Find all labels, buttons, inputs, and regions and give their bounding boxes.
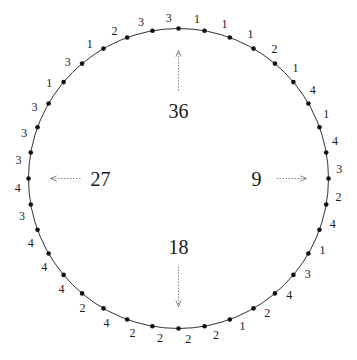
position-dot	[202, 28, 207, 33]
position-value-label: 4	[28, 236, 34, 250]
direction-label-27: 27	[91, 168, 111, 190]
position-dot	[46, 101, 51, 106]
position-value-label: 4	[286, 288, 292, 302]
position-labels-group: 311121414324134212222424443433313123	[15, 11, 342, 346]
position-dot	[317, 228, 322, 233]
position-dot	[228, 317, 233, 322]
position-value-label: 1	[46, 76, 52, 90]
position-value-label: 4	[41, 260, 47, 274]
position-value-label: 1	[221, 17, 227, 31]
position-value-label: 3	[138, 15, 144, 29]
position-dot	[176, 326, 181, 331]
position-value-label: 1	[247, 27, 253, 41]
direction-label-9: 9	[252, 168, 262, 190]
direction-label-36: 36	[169, 100, 189, 122]
position-dot	[291, 273, 296, 278]
position-value-label: 1	[292, 61, 298, 75]
position-dot	[317, 125, 322, 130]
position-dot	[46, 251, 51, 256]
position-dot	[28, 150, 33, 155]
position-dot	[35, 228, 40, 233]
position-dot	[202, 324, 207, 329]
position-dot	[80, 291, 85, 296]
position-dot	[228, 35, 233, 40]
position-value-label: 4	[330, 217, 336, 231]
position-dot	[61, 273, 66, 278]
position-dot	[326, 176, 331, 181]
position-value-label: 1	[320, 243, 326, 257]
position-value-label: 2	[185, 332, 191, 346]
position-dot	[176, 26, 181, 31]
position-dot	[324, 202, 329, 207]
direction-arrows-group: 3691827	[51, 51, 307, 307]
position-value-label: 1	[87, 37, 93, 51]
position-dot	[80, 61, 85, 66]
position-dot	[125, 317, 130, 322]
position-dot	[101, 46, 106, 51]
position-dot	[273, 61, 278, 66]
position-value-label: 3	[336, 162, 342, 176]
position-value-label: 4	[332, 134, 338, 148]
position-value-label: 3	[166, 11, 172, 25]
position-dot	[125, 35, 130, 40]
position-value-label: 1	[194, 12, 200, 26]
position-value-label: 2	[264, 306, 270, 320]
position-dot	[251, 46, 256, 51]
position-dot	[26, 176, 31, 181]
position-value-label: 3	[16, 153, 22, 167]
position-dot	[28, 202, 33, 207]
position-dot	[101, 306, 106, 311]
position-value-label: 3	[305, 267, 311, 281]
position-value-label: 2	[271, 42, 277, 56]
position-dot	[291, 80, 296, 85]
position-value-label: 1	[323, 107, 329, 121]
position-value-label: 3	[21, 126, 27, 140]
position-value-label: 2	[157, 331, 163, 345]
position-dot	[273, 291, 278, 296]
position-value-label: 3	[65, 55, 71, 69]
direction-label-18: 18	[169, 236, 189, 258]
diagram-canvas: 311121414324134212222424443433313123 369…	[0, 0, 357, 360]
position-dot	[61, 80, 66, 85]
position-value-label: 2	[111, 24, 117, 38]
position-dot	[324, 150, 329, 155]
position-dot	[306, 251, 311, 256]
position-dot	[150, 324, 155, 329]
position-dot	[306, 101, 311, 106]
position-value-label: 4	[59, 282, 65, 296]
circular-position-diagram: 311121414324134212222424443433313123 369…	[0, 0, 357, 360]
position-dot	[251, 306, 256, 311]
position-value-label: 3	[31, 100, 37, 114]
position-value-label: 2	[335, 190, 341, 204]
position-value-label: 4	[104, 316, 110, 330]
position-value-label: 4	[310, 83, 316, 97]
position-dot	[35, 125, 40, 130]
position-value-label: 4	[15, 181, 21, 195]
position-value-label: 2	[80, 301, 86, 315]
position-value-label: 3	[19, 209, 25, 223]
position-value-label: 1	[240, 319, 246, 333]
position-value-label: 2	[130, 326, 136, 340]
position-dot	[150, 28, 155, 33]
position-value-label: 2	[213, 328, 219, 342]
